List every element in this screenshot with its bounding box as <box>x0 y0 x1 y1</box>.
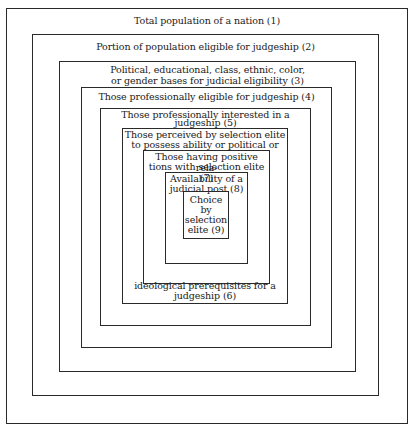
level-4-label: Those professionally eligible for judges… <box>82 91 331 102</box>
level-3-label-line2: or gender bases for judicial eligibility… <box>60 75 355 86</box>
level-2-label: Portion of population eligible for judge… <box>33 41 378 52</box>
level-9-choice-by-elite-box: Choice by selection elite (9) <box>183 191 229 239</box>
level-6-label-bottom-line2: judgeship (6) <box>123 290 287 301</box>
level-9-label-line4: elite (9) <box>184 224 228 235</box>
level-3-label-line1: Political, educational, class, ethnic, c… <box>60 64 355 75</box>
level-1-label: Total population of a nation (1) <box>7 15 407 26</box>
level-5-label-line2: judgeship (5) <box>101 117 310 128</box>
level-6-label-top-line2: to possess ability or political or <box>123 139 287 150</box>
